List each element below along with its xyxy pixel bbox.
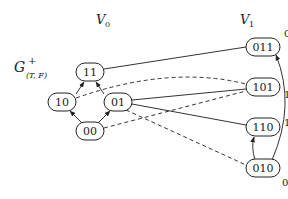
node-01: 01	[104, 93, 132, 111]
svg-text:0: 0	[105, 20, 110, 29]
weight-011: 0	[284, 28, 288, 39]
svg-text:00: 00	[83, 125, 97, 138]
svg-text:11: 11	[83, 66, 97, 79]
edge-010-to-110	[253, 137, 255, 160]
title-subscript: (T, F)	[26, 71, 47, 80]
weight-010: 0	[282, 177, 288, 188]
edge-01-to-11	[96, 82, 104, 94]
edge-010-to-011	[272, 55, 285, 160]
edge-01-110	[132, 104, 246, 125]
graph-title: G + (T, F)	[14, 55, 47, 80]
node-00: 00	[76, 122, 104, 140]
edge-01-101	[132, 89, 246, 100]
edge-00-to-01	[97, 111, 110, 124]
node-101: 101	[246, 78, 280, 96]
svg-text:1: 1	[249, 20, 254, 29]
svg-text:011: 011	[253, 41, 274, 54]
node-10: 10	[48, 93, 76, 111]
partition-label-v1: V 1	[240, 12, 254, 29]
edge-01-010-dashed	[126, 110, 246, 165]
weight-110: 1	[284, 117, 288, 128]
svg-text:101: 101	[253, 81, 274, 94]
graph-diagram: G + (T, F) V 0 V 1 11 10	[0, 0, 288, 199]
svg-text:01: 01	[111, 96, 125, 109]
edges	[70, 47, 285, 165]
edge-11-011	[104, 47, 246, 69]
svg-text:10: 10	[55, 96, 69, 109]
node-011: 011	[246, 38, 280, 56]
node-010: 010	[246, 159, 280, 177]
partition-label-v0: V 0	[96, 12, 110, 29]
svg-text:010: 010	[253, 162, 274, 175]
edge-10-101-dashed	[76, 77, 246, 98]
weight-101: 1	[284, 89, 288, 100]
title-main: G	[14, 59, 25, 75]
edge-00-to-10	[70, 111, 83, 124]
title-superscript: +	[28, 55, 36, 66]
node-110: 110	[246, 118, 280, 136]
svg-text:110: 110	[253, 121, 274, 134]
edge-10-to-11	[76, 82, 84, 94]
node-11: 11	[76, 63, 104, 81]
